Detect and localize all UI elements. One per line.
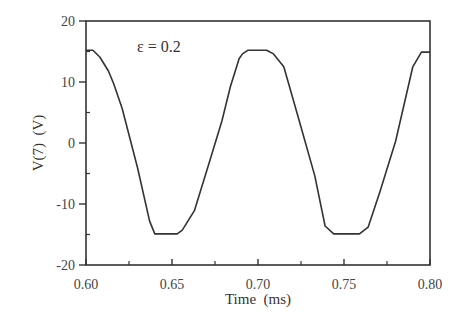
x-tick-label: 0.80 bbox=[418, 277, 443, 292]
x-axis-ticks: 0.600.650.700.750.80 bbox=[74, 259, 443, 292]
x-tick-label: 0.65 bbox=[160, 277, 185, 292]
y-tick-label: -20 bbox=[56, 258, 75, 273]
line-chart: 0.600.650.700.750.80 -20-1001020 ε = 0.2… bbox=[0, 0, 468, 335]
x-tick-label: 0.75 bbox=[332, 277, 357, 292]
x-axis-label: Time (ms) bbox=[225, 291, 291, 308]
y-tick-label: -10 bbox=[56, 197, 75, 212]
x-tick-label: 0.60 bbox=[74, 277, 99, 292]
plot-frame bbox=[86, 21, 430, 265]
x-tick-label: 0.70 bbox=[246, 277, 271, 292]
voltage-series-line bbox=[86, 50, 430, 234]
y-tick-label: 10 bbox=[61, 75, 75, 90]
plot-border bbox=[86, 21, 430, 265]
y-tick-label: 20 bbox=[61, 14, 75, 29]
y-axis-ticks: -20-1001020 bbox=[56, 14, 90, 273]
y-axis-label: V(7) (V) bbox=[30, 115, 47, 172]
epsilon-annotation: ε = 0.2 bbox=[137, 38, 181, 55]
y-tick-label: 0 bbox=[68, 136, 75, 151]
